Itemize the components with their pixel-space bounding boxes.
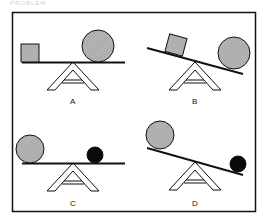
frame-border xyxy=(13,13,256,212)
square-weight-icon xyxy=(165,34,187,56)
large-ball-icon xyxy=(16,135,44,163)
panel-label: B xyxy=(192,97,197,106)
panel-label: A xyxy=(70,97,76,106)
square-weight-icon xyxy=(21,44,39,62)
seesaw-diagram: A B C D xyxy=(0,0,264,223)
panel-d: D xyxy=(146,121,246,208)
panel-c: C xyxy=(16,135,125,208)
fulcrum-icon xyxy=(47,62,99,90)
small-black-ball-icon xyxy=(230,156,246,172)
panel-label: C xyxy=(70,199,76,208)
large-ball-icon xyxy=(218,37,250,69)
panel-b: B xyxy=(147,34,250,106)
panel-label: D xyxy=(192,199,198,208)
large-ball-icon xyxy=(146,121,174,149)
small-black-ball-icon xyxy=(87,147,103,163)
plank xyxy=(147,148,243,175)
large-ball-icon xyxy=(82,30,114,62)
panel-a: A xyxy=(21,30,125,106)
fulcrum-icon xyxy=(47,163,99,191)
